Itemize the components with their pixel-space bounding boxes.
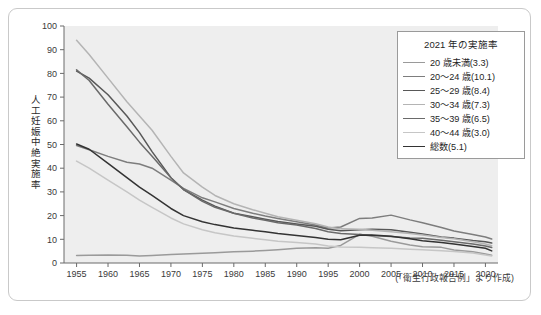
legend-entry: 25〜29 歳(8.4)	[403, 83, 519, 97]
legend-entry-label: 総数(5.1)	[430, 139, 467, 153]
y-tick-label: 100	[42, 21, 57, 31]
legend-entry-label: 25〜29 歳(8.4)	[430, 83, 490, 97]
legend-color-swatch	[403, 90, 425, 91]
legend-entry-label: 20〜24 歳(10.1)	[430, 69, 495, 83]
figure-container: 人工妊娠中絶実施率 0102030405060708090100 1955196…	[8, 8, 531, 301]
legend-entry: 総数(5.1)	[403, 139, 519, 153]
legend-entry: 20〜24 歳(10.1)	[403, 69, 519, 83]
legend-entry-label: 30〜34 歳(7.3)	[430, 97, 490, 111]
y-tick-label: 90	[47, 45, 57, 55]
y-tick-label: 10	[47, 235, 57, 245]
y-tick-label: 70	[47, 92, 57, 102]
y-axis-ticks: 0102030405060708090100	[42, 21, 64, 268]
y-tick-label: 30	[47, 187, 57, 197]
legend-entry-label: 35〜39 歳(6.5)	[430, 111, 490, 125]
legend-color-swatch	[403, 146, 425, 147]
y-tick-label: 60	[47, 116, 57, 126]
legend-color-swatch	[403, 62, 425, 63]
legend-entry: 35〜39 歳(6.5)	[403, 111, 519, 125]
legend-entry-list: 20 歳未満(3.3)20〜24 歳(10.1)25〜29 歳(8.4)30〜3…	[403, 55, 519, 153]
legend-entry-label: 20 歳未満(3.3)	[430, 55, 489, 69]
y-tick-label: 0	[52, 258, 57, 268]
legend-color-swatch	[403, 118, 425, 119]
legend-box: 2021 年の実施率 20 歳未満(3.3)20〜24 歳(10.1)25〜29…	[397, 31, 525, 159]
source-note: (「衛生行政報告例」より作成)	[9, 271, 514, 284]
y-tick-label: 50	[47, 140, 57, 150]
legend-color-swatch	[403, 76, 425, 77]
legend-color-swatch	[403, 132, 425, 133]
legend-title: 2021 年の実施率	[403, 37, 519, 51]
y-tick-label: 20	[47, 211, 57, 221]
legend-entry: 40〜44 歳(3.0)	[403, 125, 519, 139]
legend-entry: 30〜34 歳(7.3)	[403, 97, 519, 111]
y-tick-label: 40	[47, 163, 57, 173]
legend-color-swatch	[403, 104, 425, 105]
legend-entry: 20 歳未満(3.3)	[403, 55, 519, 69]
y-tick-label: 80	[47, 69, 57, 79]
legend-entry-label: 40〜44 歳(3.0)	[430, 125, 490, 139]
